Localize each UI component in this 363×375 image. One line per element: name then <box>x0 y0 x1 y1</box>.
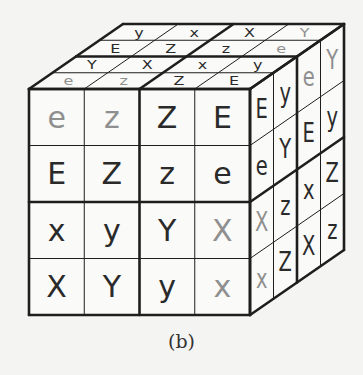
right-cell-letter: Y <box>278 135 292 164</box>
top-cell-letter: Z <box>173 74 184 88</box>
right-cell-letter: y <box>326 102 338 131</box>
cube-diagram: ezZEEZzexyYXXYyxyxXYEZzeYXxyezZEEyeYeYEy… <box>0 0 363 375</box>
top-cell-letter: X <box>142 58 153 72</box>
front-cell-letter: z <box>104 100 120 135</box>
right-cell-letter: Y <box>325 46 339 75</box>
cube-faces <box>29 24 344 315</box>
front-cell-letter: x <box>213 269 231 304</box>
front-cell-letter: X <box>46 269 67 304</box>
right-cell-letter: Z <box>279 248 292 277</box>
top-cell-letter: Z <box>165 41 176 55</box>
top-cell-letter: X <box>244 25 255 39</box>
top-cell-letter: e <box>63 74 73 88</box>
rubik-letter-cube: ezZEEZzexyYXXYyxyxXYEZzeYXxyezZEEyeYeYEy… <box>0 0 363 375</box>
right-cell-letter: y <box>279 78 291 107</box>
top-cell-letter: E <box>110 41 120 55</box>
right-cell-letter: X <box>302 231 316 260</box>
front-cell-letter: Y <box>102 269 122 304</box>
front-cell-letter: e <box>213 156 231 191</box>
right-cell-letter: e <box>303 62 315 91</box>
right-cell-letter: E <box>256 94 268 123</box>
right-cell-letter: e <box>256 151 268 180</box>
right-cell-letter: x <box>303 175 315 204</box>
top-cell-letter: x <box>189 25 199 39</box>
right-cell-letter: z <box>280 191 290 220</box>
right-cell-letter: z <box>327 215 337 244</box>
top-cell-letter: Y <box>299 25 310 39</box>
front-cell-letter: Y <box>157 213 177 248</box>
top-cell-letter: z <box>222 41 230 55</box>
front-cell-letter: y <box>158 269 176 304</box>
front-cell-letter: X <box>212 213 233 248</box>
top-cell-letter: Y <box>86 58 97 72</box>
front-cell-letter: e <box>47 100 65 135</box>
right-cell-letter: x <box>256 264 268 293</box>
front-cell-letter: E <box>213 100 232 135</box>
right-cell-letter: Z <box>326 159 339 188</box>
figure-caption: (b) <box>0 330 363 352</box>
front-cell-letter: Z <box>157 100 178 135</box>
front-cell-letter: y <box>103 213 121 248</box>
front-cell-letter: Z <box>102 156 123 191</box>
top-cell-letter: y <box>253 58 263 72</box>
front-cell-letter: x <box>48 213 66 248</box>
front-cell-letter: z <box>159 156 175 191</box>
right-cell-letter: X <box>255 207 269 236</box>
top-cell-letter: e <box>276 41 286 55</box>
front-cell-letter: E <box>47 156 66 191</box>
top-cell-letter: y <box>134 25 144 39</box>
top-cell-letter: z <box>119 74 127 88</box>
right-cell-letter: E <box>303 118 315 147</box>
top-cell-letter: E <box>229 74 239 88</box>
top-cell-letter: x <box>198 58 208 72</box>
